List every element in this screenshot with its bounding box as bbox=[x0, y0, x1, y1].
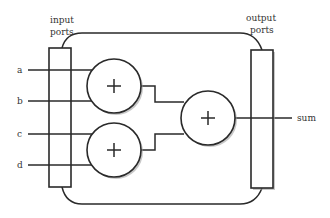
input-ports-label-line1: input bbox=[50, 15, 74, 25]
input-label-a: a bbox=[17, 65, 23, 75]
output-label-sum: sum bbox=[297, 113, 316, 123]
output-ports-label-line1: output bbox=[246, 13, 276, 23]
output-ports-label-line2: ports bbox=[250, 25, 274, 35]
adder-block-diagram: input ports output ports a b c d sum bbox=[0, 0, 330, 218]
input-ports-label-line2: ports bbox=[50, 27, 74, 37]
adder-final bbox=[181, 91, 237, 147]
adder-bottom bbox=[87, 123, 143, 179]
input-ports-box bbox=[49, 48, 71, 187]
input-label-d: d bbox=[17, 160, 23, 170]
output-ports-box bbox=[251, 50, 273, 188]
adder-top bbox=[87, 59, 143, 115]
wire-top-to-final bbox=[141, 86, 184, 102]
input-label-c: c bbox=[17, 129, 22, 139]
input-label-b: b bbox=[17, 96, 23, 106]
wire-bottom-to-final bbox=[141, 134, 184, 150]
